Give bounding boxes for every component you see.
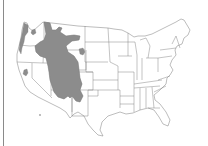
us-outline bbox=[17, 19, 190, 136]
us-range-map bbox=[0, 0, 208, 146]
outlier-point bbox=[39, 114, 41, 116]
